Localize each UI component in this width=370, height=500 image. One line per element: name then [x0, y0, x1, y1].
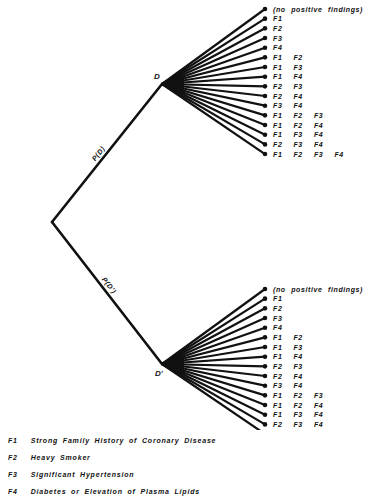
leaf-label: F1 F2 F3	[273, 112, 323, 119]
leaf-edge	[162, 84, 265, 144]
legend-item-f4: F4 Diabetes or Elevation of Plasma Lipid…	[8, 483, 216, 500]
leaf-dot	[263, 316, 268, 321]
legend-text: Significant Hypertension	[31, 471, 135, 478]
leaf-label: F3 F4	[273, 382, 303, 389]
leaf-dot	[263, 84, 268, 89]
legend-item-f2: F2 Heavy Smoker	[8, 449, 216, 466]
leaf-dot	[263, 287, 268, 292]
leaf-label: F4	[273, 324, 282, 331]
legend-code: F1	[8, 432, 26, 449]
leaf-label: F1 F2 F3 F4	[273, 151, 344, 158]
leaf-dot	[263, 345, 268, 350]
leaf-label: F2 F3 F4	[273, 421, 323, 428]
legend-code: F3	[8, 466, 26, 483]
leaf-dot	[263, 132, 268, 137]
leaf-label: F1 F2 F3	[273, 392, 323, 399]
leaf-label: F2	[273, 25, 282, 32]
leaf-label: F1 F4	[273, 353, 303, 360]
leaf-dot	[263, 325, 268, 330]
leaf-dot	[263, 374, 268, 379]
leaf-edge	[162, 9, 265, 84]
leaf-dot	[263, 55, 268, 60]
leaf-label: (no positive findings)	[273, 6, 363, 14]
leaf-dot	[263, 16, 268, 21]
leaf-dot	[263, 103, 268, 108]
leaf-dot	[263, 142, 268, 147]
legend-item-f1: F1 Strong Family History of Coronary Dis…	[8, 432, 216, 449]
node-label: D'	[155, 369, 164, 378]
leaf-label: (no positive findings)	[273, 286, 363, 294]
legend-text: Strong Family History of Coronary Diseas…	[31, 437, 217, 444]
leaf-dot	[263, 65, 268, 70]
leaf-dot	[263, 113, 268, 118]
main-edge	[52, 84, 162, 222]
leaf-label: F1 F2 F4	[273, 402, 323, 409]
leaf-edge	[162, 364, 265, 424]
leaf-label: F1 F2 F4	[273, 122, 323, 129]
main-edge	[52, 222, 162, 364]
leaf-edge	[162, 289, 265, 364]
legend-code: F2	[8, 449, 26, 466]
leaf-dot	[263, 94, 268, 99]
legend-item-f3: F3 Significant Hypertension	[8, 466, 216, 483]
leaf-label: F3	[273, 315, 282, 322]
leaf-dot	[263, 364, 268, 369]
probability-tree: P(D)D(no positive findings)F1F2F3F4F1 F2…	[0, 0, 370, 430]
leaf-dot	[263, 123, 268, 128]
leaf-label: F3	[273, 35, 282, 42]
edge-label: P(D)	[90, 145, 107, 163]
leaf-label: F1	[273, 295, 282, 302]
leaf-dot	[263, 393, 268, 398]
leaf-dot	[263, 412, 268, 417]
leaf-dot	[263, 306, 268, 311]
probability-tree-figure: P(D)D(no positive findings)F1F2F3F4F1 F2…	[0, 0, 370, 500]
legend: F1 Strong Family History of Coronary Dis…	[8, 432, 216, 500]
leaf-dot	[263, 26, 268, 31]
leaf-label: F3 F4	[273, 102, 303, 109]
leaf-label: F1 F2	[273, 334, 303, 341]
leaf-dot	[263, 354, 268, 359]
leaf-label: F1 F3	[273, 64, 303, 71]
leaf-label: F2	[273, 305, 282, 312]
leaf-dot	[263, 383, 268, 388]
leaf-dot	[263, 7, 268, 12]
leaf-dot	[263, 422, 268, 427]
leaf-label: F1	[273, 15, 282, 22]
leaf-dot	[263, 296, 268, 301]
leaf-dot	[263, 335, 268, 340]
legend-text: Diabetes or Elevation of Plasma Lipids	[31, 488, 200, 495]
leaf-dot	[263, 74, 268, 79]
leaf-label: F1 F4	[273, 73, 303, 80]
leaf-dot	[263, 45, 268, 50]
leaf-label: F4	[273, 44, 282, 51]
leaf-label: F2 F3	[273, 363, 303, 370]
leaf-dot	[263, 152, 268, 157]
leaf-dot	[263, 403, 268, 408]
node-label: D	[154, 72, 160, 81]
leaf-label: F1 F3 F4	[273, 131, 323, 138]
leaf-label: F2 F4	[273, 373, 303, 380]
leaf-label: F1 F3 F4	[273, 411, 323, 418]
legend-text: Heavy Smoker	[31, 454, 91, 461]
leaf-edge	[162, 19, 265, 84]
leaf-edge	[162, 299, 265, 364]
leaf-label: F2 F4	[273, 93, 303, 100]
legend-code: F4	[8, 483, 26, 500]
leaf-label: F1 F2	[273, 54, 303, 61]
leaf-label: F1 F3	[273, 344, 303, 351]
leaf-label: F2 F3 F4	[273, 141, 323, 148]
leaf-dot	[263, 36, 268, 41]
leaf-label: F2 F3	[273, 83, 303, 90]
